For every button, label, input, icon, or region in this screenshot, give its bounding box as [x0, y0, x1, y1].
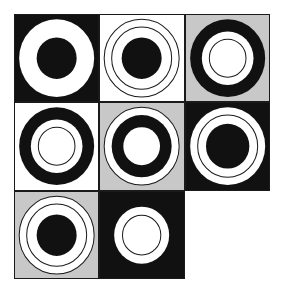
- concentric-circles-icon: [100, 103, 183, 189]
- concentric-circles-icon: [15, 192, 98, 278]
- circle-inner-disk: [124, 128, 161, 166]
- concentric-circles-icon: [15, 103, 98, 189]
- matrix-cell-row2-col2[interactable]: [99, 102, 184, 190]
- matrix-cell-row2-col1[interactable]: [14, 102, 99, 190]
- concentric-circles-icon: [100, 192, 183, 278]
- matrix-cell-row2-col3[interactable]: [185, 102, 270, 190]
- puzzle-canvas: [0, 0, 282, 290]
- matrix-cell-row1-col1[interactable]: [14, 14, 99, 102]
- circle-inner-disk: [206, 124, 249, 169]
- circle-inner-disk: [37, 214, 77, 255]
- matrix-grid: [14, 14, 270, 279]
- concentric-circles-icon: [15, 15, 98, 101]
- matrix-cell-row1-col2[interactable]: [99, 14, 184, 102]
- matrix-cell-row1-col3[interactable]: [185, 14, 270, 102]
- circle-inner-disk: [122, 37, 162, 78]
- matrix-cell-row3-col2[interactable]: [99, 191, 184, 279]
- circle-inner-disk: [37, 37, 77, 78]
- matrix-cell-row3-col3[interactable]: [185, 191, 270, 279]
- concentric-circles-icon: [186, 103, 269, 189]
- concentric-circles-icon: [100, 15, 183, 101]
- matrix-cell-row3-col1[interactable]: [14, 191, 99, 279]
- concentric-circles-icon: [186, 15, 269, 101]
